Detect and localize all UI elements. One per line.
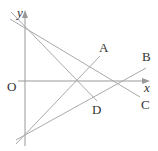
- y-axis-arrow-icon: [22, 10, 28, 18]
- line-d: [11, 12, 97, 101]
- line-b: [16, 68, 146, 140]
- x-axis-label: x: [143, 80, 150, 95]
- coordinate-diagram: y x O A B C D: [0, 0, 158, 151]
- line-c-label: C: [141, 97, 150, 112]
- line-b-label: B: [142, 49, 151, 64]
- line-d-label: D: [92, 102, 101, 117]
- y-axis-label: y: [15, 5, 23, 20]
- origin-label: O: [7, 79, 16, 94]
- line-a-label: A: [99, 40, 109, 55]
